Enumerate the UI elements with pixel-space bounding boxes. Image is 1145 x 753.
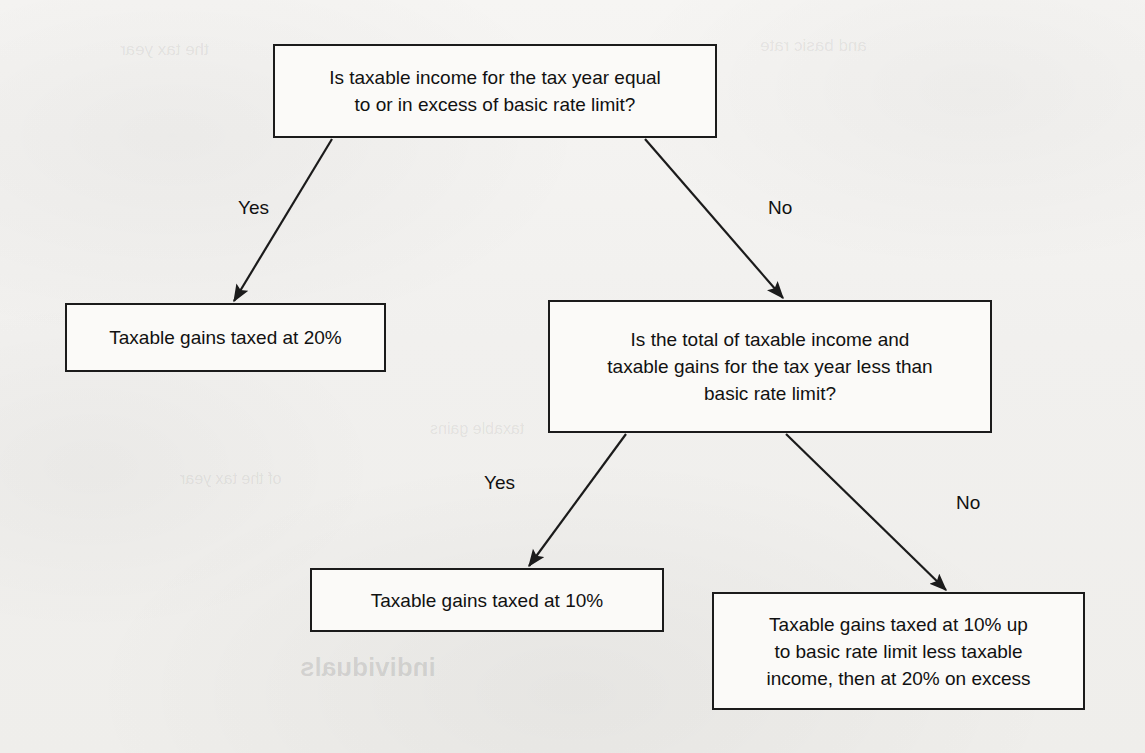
outcome-node-gains-taxed-at-10-percent: Taxable gains taxed at 10%: [310, 568, 664, 632]
outcome-mixed-line2: to basic rate limit less taxable: [774, 641, 1022, 662]
outcome-mixed-text: Taxable gains taxed at 10% up to basic r…: [722, 611, 1075, 692]
edge-d2-yes-label: Yes: [484, 473, 515, 492]
outcome10-text: Taxable gains taxed at 10%: [320, 587, 654, 614]
decision2-line3: basic rate limit?: [704, 383, 836, 404]
flowchart-page: the tax yearand basic rateexcess of thet…: [0, 0, 1145, 753]
edge-d2-no: [786, 434, 946, 590]
outcome20-line1: Taxable gains taxed at 20%: [109, 327, 341, 348]
decision2-line2: taxable gains for the tax year less than: [607, 356, 932, 377]
decision1-line2: to or in excess of basic rate limit?: [355, 94, 636, 115]
decision2-text: Is the total of taxable income and taxab…: [558, 326, 982, 407]
decision-node-taxable-income-vs-basic-rate-limit: Is taxable income for the tax year equal…: [273, 44, 717, 138]
outcome-mixed-line3: income, then at 20% on excess: [766, 668, 1030, 689]
edge-d2-yes: [529, 434, 626, 566]
ghost-text-1: and basic rate: [760, 36, 867, 56]
ghost-text-5: individuals: [300, 652, 436, 683]
edge-d1-no: [645, 139, 783, 298]
decision1-line1: Is taxable income for the tax year equal: [329, 67, 661, 88]
ghost-text-4: of the tax year: [180, 470, 281, 488]
edge-d1-yes-label: Yes: [238, 198, 269, 217]
decision2-line1: Is the total of taxable income and: [631, 329, 910, 350]
outcome-mixed-line1: Taxable gains taxed at 10% up: [769, 614, 1028, 635]
decision1-text: Is taxable income for the tax year equal…: [283, 64, 707, 118]
outcome-node-gains-taxed-at-10-then-20-percent: Taxable gains taxed at 10% up to basic r…: [712, 592, 1085, 710]
edge-d2-no-label: No: [956, 493, 980, 512]
ghost-text-3: taxable gains: [430, 420, 524, 438]
ghost-text-0: the tax year: [120, 40, 209, 60]
outcome20-text: Taxable gains taxed at 20%: [75, 324, 376, 351]
edge-d1-yes: [234, 139, 332, 301]
decision-node-total-income-and-gains-vs-basic-rate-limit: Is the total of taxable income and taxab…: [548, 300, 992, 433]
edge-d1-no-label: No: [768, 198, 792, 217]
outcome10-line1: Taxable gains taxed at 10%: [371, 590, 603, 611]
outcome-node-gains-taxed-at-20-percent: Taxable gains taxed at 20%: [65, 303, 386, 372]
